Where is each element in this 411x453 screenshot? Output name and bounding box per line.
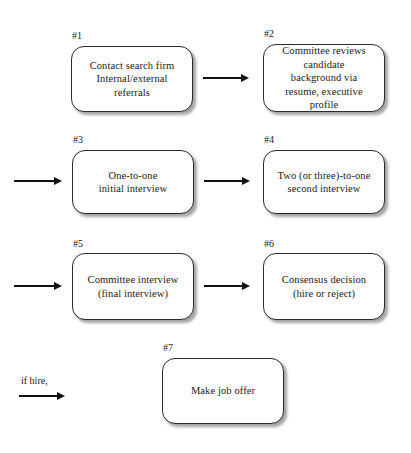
- arrow-node3-to-node4: [204, 177, 250, 186]
- edge-label-if-hire: if hire,: [21, 375, 48, 386]
- node-label-3: One-to-one initial interview: [99, 169, 167, 196]
- process-node-make-job-offer[interactable]: Make job offer: [162, 358, 284, 424]
- arrow-into-node5: [14, 282, 62, 291]
- process-node-one-to-one-initial-interview[interactable]: One-to-one initial interview: [72, 150, 194, 214]
- arrow-into-node3: [14, 177, 62, 186]
- flowchart-canvas: #1 Contact search firm Internal/external…: [0, 0, 411, 453]
- node-label-5: Committee interview (final interview): [88, 273, 179, 300]
- arrow-node5-to-node6: [204, 282, 250, 291]
- node-label-7: Make job offer: [191, 384, 255, 398]
- node-label-4: Two (or three)-to-one second interview: [278, 169, 371, 196]
- process-node-committee-reviews-background[interactable]: Committee reviews candidate background v…: [263, 44, 385, 112]
- process-node-committee-final-interview[interactable]: Committee interview (final interview): [72, 253, 194, 320]
- arrow-into-node7: [19, 392, 65, 401]
- node-label-2: Committee reviews candidate background v…: [282, 44, 366, 112]
- node-tag-6: #6: [264, 238, 274, 249]
- node-tag-2: #2: [264, 28, 274, 39]
- process-node-contact-search-firm[interactable]: Contact search firm Internal/external re…: [71, 46, 193, 112]
- process-node-second-interview[interactable]: Two (or three)-to-one second interview: [263, 150, 385, 214]
- node-tag-3: #3: [73, 134, 83, 145]
- node-tag-4: #4: [264, 134, 274, 145]
- node-tag-1: #1: [72, 30, 82, 41]
- node-label-1: Contact search firm Internal/external re…: [90, 59, 175, 100]
- node-tag-7: #7: [163, 342, 173, 353]
- process-node-consensus-decision[interactable]: Consensus decision (hire or reject): [263, 253, 385, 320]
- node-label-6: Consensus decision (hire or reject): [282, 273, 366, 300]
- node-tag-5: #5: [73, 238, 83, 249]
- arrow-node1-to-node2: [203, 74, 249, 83]
